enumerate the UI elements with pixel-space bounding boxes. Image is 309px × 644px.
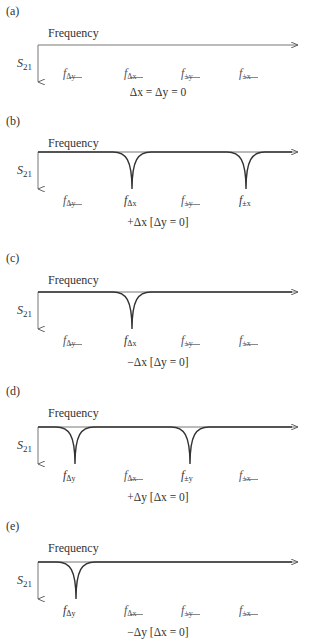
frequency-axis-label: Frequency — [48, 136, 99, 150]
frequency-marker-f_pmy-inactive: f±y — [181, 603, 193, 618]
frequency-marker-f_pmx-active: f±x — [239, 193, 251, 208]
s21-response-curve — [38, 562, 292, 599]
frequency-marker-f_dy-active: fΔy — [63, 603, 76, 618]
frequency-marker-f_dy-inactive: fΔy — [63, 66, 76, 81]
frequency-marker-f_pmx-inactive: f±x — [239, 603, 251, 618]
frequency-marker-f_dx-inactive: fΔx — [124, 66, 137, 81]
frequency-marker-f_dx-active: fΔx — [124, 333, 137, 348]
panel-label: (c) — [6, 251, 19, 265]
panel-caption: +Δy [Δx = 0] — [127, 491, 188, 504]
panel-caption: Δx = Δy = 0 — [130, 86, 187, 99]
panel-e: (e)FrequencyS21fΔyfΔxf±yf±x−Δy [Δx = 0] — [6, 519, 298, 639]
panel-a: (a)FrequencyS21fΔyfΔxf±yf±xΔx = Δy = 0 — [6, 4, 298, 99]
s21-axis-label: S21 — [17, 438, 32, 454]
s21-axis-label: S21 — [17, 56, 32, 72]
frequency-marker-f_dx-inactive: fΔx — [124, 603, 137, 618]
s21-response-curve — [38, 292, 292, 329]
frequency-marker-f_pmy-inactive: f±y — [181, 193, 193, 208]
frequency-marker-f_pmy-inactive: f±y — [181, 333, 193, 348]
frequency-marker-f_dx-active: fΔx — [124, 193, 137, 208]
frequency-marker-f_dy-inactive: fΔy — [63, 193, 76, 208]
frequency-axis-label: Frequency — [48, 273, 99, 287]
frequency-marker-f_pmx-inactive: f±x — [239, 468, 251, 483]
panel-caption: −Δy [Δx = 0] — [127, 626, 188, 639]
frequency-axis-label: Frequency — [48, 541, 99, 555]
s21-axis-label: S21 — [17, 163, 32, 179]
frequency-marker-f_dy-inactive: fΔy — [63, 333, 76, 348]
panel-label: (d) — [6, 384, 20, 398]
panel-d: (d)FrequencyS21fΔyfΔxf±yf±x+Δy [Δx = 0] — [6, 384, 298, 504]
panel-c: (c)FrequencyS21fΔyfΔxf±yf±x−Δx [Δy = 0] — [6, 251, 298, 369]
panel-label: (a) — [6, 4, 19, 18]
frequency-marker-f_pmx-inactive: f±x — [239, 333, 251, 348]
panel-caption: +Δx [Δy = 0] — [127, 216, 188, 229]
panel-label: (b) — [6, 114, 20, 128]
frequency-marker-f_pmy-inactive: f±y — [181, 66, 193, 81]
frequency-marker-f_pmx-inactive: f±x — [239, 66, 251, 81]
s21-response-curve — [38, 152, 292, 189]
s21-axis-label: S21 — [17, 303, 32, 319]
s21-axis-label: S21 — [17, 573, 32, 589]
frequency-marker-f_pmy-active: f±y — [181, 468, 193, 483]
frequency-marker-f_dx-inactive: fΔx — [124, 468, 137, 483]
frequency-axis-label: Frequency — [48, 26, 99, 40]
panel-label: (e) — [6, 519, 19, 533]
frequency-marker-f_dy-active: fΔy — [63, 468, 76, 483]
panel-b: (b)FrequencyS21fΔyfΔxf±yf±x+Δx [Δy = 0] — [6, 114, 298, 229]
frequency-axis-label: Frequency — [48, 406, 99, 420]
panel-caption: −Δx [Δy = 0] — [127, 356, 188, 369]
s21-response-curve — [38, 427, 292, 464]
s21-frequency-response-diagram: (a)FrequencyS21fΔyfΔxf±yf±xΔx = Δy = 0(b… — [0, 0, 309, 644]
